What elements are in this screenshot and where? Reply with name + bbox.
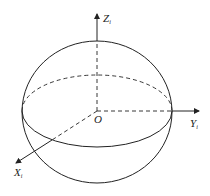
y-axis-label: Yi	[190, 117, 198, 130]
x-axis-label: Xi	[13, 166, 23, 179]
x-axis-outer	[16, 140, 52, 163]
x-axis-inner	[52, 111, 97, 140]
sphere-outline	[22, 41, 172, 183]
origin-label: O	[94, 113, 102, 125]
sphere-diagram: Zi Yi Xi O	[0, 0, 210, 196]
z-axis-label: Zi	[103, 12, 111, 25]
